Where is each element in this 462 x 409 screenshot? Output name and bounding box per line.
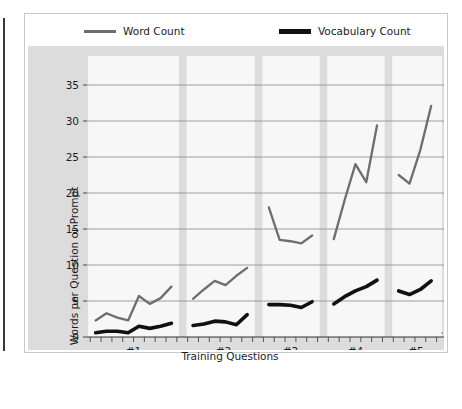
group-bands [88,56,442,337]
x-tick-label-group-5: #5 [408,345,423,350]
legend-item-word-count: Word Count [84,24,185,38]
group-band-4 [327,56,384,337]
legend-label-word-count: Word Count [123,26,185,37]
x-axis-label: Training Questions [120,350,340,362]
scan-speck [441,332,443,334]
chart-plot: 05101520253035 #1#2#3#4#5 [28,46,444,350]
y-axis-label-wrap: Words per Question or Prompt [46,110,66,250]
page-edge-artifact [3,18,5,351]
y-tick-label-35: 35 [66,79,79,91]
legend-label-vocabulary-count: Vocabulary Count [318,26,411,37]
chart-legend: Word Count Vocabulary Count [24,13,448,46]
line-swatch-icon [279,29,311,34]
y-tick-label-25: 25 [66,151,79,163]
x-axis [87,337,444,342]
legend-item-vocabulary-count: Vocabulary Count [279,24,411,38]
group-band-5 [392,56,442,337]
x-tick-label-group-4: #4 [348,345,364,350]
group-band-3 [262,56,319,337]
group-band-1 [88,56,179,337]
y-axis-label: Words per Question or Prompt [68,176,80,356]
y-tick-label-30: 30 [66,115,79,127]
line-swatch-icon [84,30,116,33]
